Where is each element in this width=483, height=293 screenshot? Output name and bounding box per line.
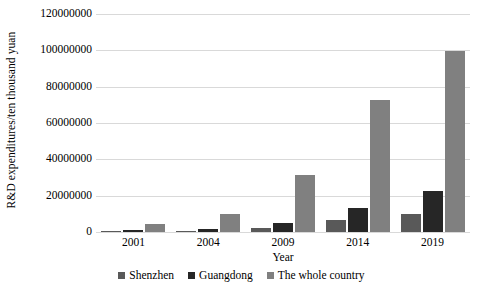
bar [423,191,443,232]
legend-label: Shenzhen [129,269,174,281]
x-axis-title: Year [96,250,470,264]
bar-chart: R&D expenditures/ten thousand yuan 02000… [0,0,483,293]
x-axis-tick-labels: 20012004200920142019 [96,235,470,251]
bar [326,220,346,232]
y-axis-tick-labels: 0200000004000000060000000800000001000000… [0,14,96,232]
bar [145,224,165,232]
y-axis-tick-label: 0 [4,226,96,238]
bar-group [96,14,171,232]
bar [348,208,368,232]
legend-item[interactable]: Guangdong [188,269,253,281]
x-axis-tick-label: 2014 [318,235,398,249]
gridline [96,232,470,233]
legend-swatch-icon [118,272,125,279]
legend-label: The whole country [278,269,365,281]
legend-swatch-icon [188,272,195,279]
bar [445,51,465,232]
bar-group [246,14,321,232]
x-axis-tick-label: 2009 [243,235,323,249]
y-axis-tick-label: 80000000 [4,81,96,93]
x-axis-tick-label: 2001 [93,235,173,249]
y-axis-tick-label: 120000000 [4,8,96,20]
legend-item[interactable]: Shenzhen [118,269,174,281]
bar [123,230,143,232]
plot-area [96,14,470,232]
y-axis-tick-label: 20000000 [4,190,96,202]
legend-label: Guangdong [199,269,253,281]
bar [295,175,315,232]
bar [251,228,271,232]
bar [101,231,121,232]
x-axis-tick-label: 2004 [168,235,248,249]
x-axis-tick-label: 2019 [393,235,473,249]
bar [198,229,218,232]
legend-swatch-icon [267,272,274,279]
bar [220,214,240,232]
y-axis-tick-label: 40000000 [4,154,96,166]
bar-group [395,14,470,232]
bar-group [320,14,395,232]
y-axis-tick-label: 100000000 [4,45,96,57]
bar [176,231,196,232]
bar [273,223,293,232]
chart-legend: ShenzhenGuangdongThe whole country [0,269,483,281]
bar-group [171,14,246,232]
bar [370,100,390,232]
legend-item[interactable]: The whole country [267,269,365,281]
y-axis-tick-label: 60000000 [4,117,96,129]
bar [401,214,421,232]
